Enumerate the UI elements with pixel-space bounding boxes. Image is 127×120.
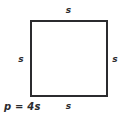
- geometry-figure: s s s s p = 4s: [0, 0, 127, 120]
- side-label-right: s: [111, 54, 119, 64]
- side-label-left: s: [17, 54, 25, 64]
- square-shape: [30, 20, 108, 97]
- side-label-top: s: [0, 5, 127, 15]
- perimeter-formula: p = 4s: [4, 101, 41, 113]
